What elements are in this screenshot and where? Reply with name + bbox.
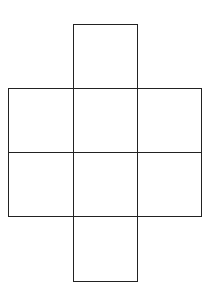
net-square-middle-right xyxy=(137,88,202,153)
net-square-lower-right xyxy=(137,152,202,217)
net-square-bottom xyxy=(73,216,138,282)
net-square-middle-center xyxy=(73,88,138,153)
net-square-middle-left xyxy=(8,88,74,153)
net-square-lower-center xyxy=(73,152,138,217)
net-square-top xyxy=(73,24,138,89)
net-square-lower-left xyxy=(8,152,74,217)
